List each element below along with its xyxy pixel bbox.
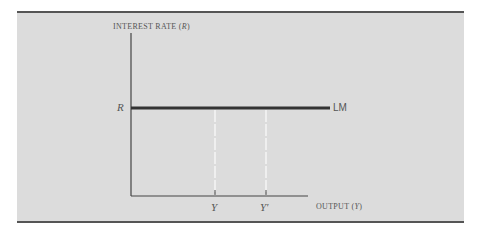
- lm-label: LM: [333, 102, 347, 113]
- lm-diagram: [0, 0, 479, 236]
- x-axis-label: OUTPUT (Y): [316, 202, 362, 211]
- x-tick-label-y-prime: Y′: [260, 201, 269, 213]
- r-level-label: R: [117, 101, 124, 113]
- x-tick-label-y: Y: [211, 201, 217, 213]
- figure: INTEREST RATE (R) R LM Y Y′ OUTPUT (Y): [0, 0, 479, 236]
- y-axis-label: INTEREST RATE (R): [113, 22, 190, 31]
